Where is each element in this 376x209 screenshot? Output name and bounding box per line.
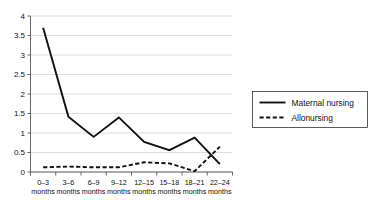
legend-label-0: Maternal nursing [292, 98, 355, 108]
y-tick-label: 4 [21, 12, 26, 21]
series-line-0 [43, 28, 220, 165]
y-tick-labels: 00.511.522.533.54 [14, 12, 26, 177]
line-chart: 00.511.522.533.54 0–3months3–6months6–9m… [0, 0, 376, 209]
x-tick-label-range: 12–15 [134, 178, 154, 187]
x-axis [31, 172, 233, 176]
y-tick-label: 0.5 [14, 148, 26, 157]
y-tick-label: 2 [21, 90, 26, 99]
series-line-1 [43, 147, 220, 172]
x-tick-label-unit: months [82, 187, 106, 196]
x-tick-label-range: 3–6 [62, 178, 74, 187]
chart-canvas: 00.511.522.533.54 0–3months3–6months6–9m… [0, 0, 376, 209]
x-tick-labels: 0–3months3–6months6–9months9–12months12–… [31, 178, 232, 196]
x-tick-label-unit: months [208, 187, 232, 196]
y-tick-label: 1.5 [14, 109, 26, 118]
legend-label-1: Allonursing [292, 113, 334, 123]
y-tick-label: 3 [21, 51, 26, 60]
x-tick-label-range: 9–12 [111, 178, 127, 187]
y-tick-label: 3.5 [14, 31, 26, 40]
x-tick-label-unit: months [107, 187, 131, 196]
x-tick-label-range: 18–21 [185, 178, 205, 187]
legend: Maternal nursingAllonursing [253, 92, 368, 128]
x-tick-label-unit: months [57, 187, 81, 196]
y-tick-label: 0 [21, 168, 26, 177]
x-tick-label-range: 0–3 [37, 178, 49, 187]
x-tick-label-unit: months [31, 187, 55, 196]
x-tick-label-unit: months [158, 187, 182, 196]
x-tick-label-range: 22–24 [210, 178, 230, 187]
x-tick-label-unit: months [132, 187, 156, 196]
y-axis [28, 16, 31, 172]
x-tick-label-range: 15–18 [159, 178, 179, 187]
x-tick-label-range: 6–9 [88, 178, 100, 187]
y-tick-label: 1 [21, 129, 26, 138]
x-tick-label-unit: months [183, 187, 207, 196]
gridlines [31, 16, 233, 172]
data-series [43, 28, 220, 172]
y-tick-label: 2.5 [14, 70, 26, 79]
